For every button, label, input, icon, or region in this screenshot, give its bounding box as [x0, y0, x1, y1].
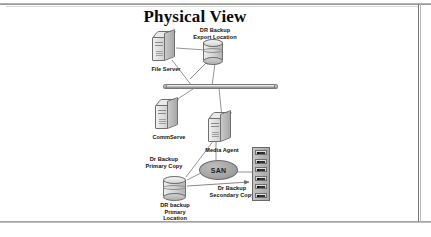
- server-bay-slot: [211, 126, 219, 127]
- cylinder-top-ellipse: [203, 39, 223, 47]
- server-side-face: [220, 110, 231, 142]
- server-vent: [156, 55, 163, 56]
- tape-drive-slot: [255, 184, 267, 189]
- cylinder-band: [203, 48, 223, 53]
- server-bay-slot: [155, 45, 163, 46]
- label-media-agent: Media Agent: [195, 147, 249, 154]
- tape-drive-slot: [255, 176, 267, 181]
- server-bay-slot: [158, 110, 166, 111]
- label-dr-backup-secondary-copy: Dr Backup Secondary Copy: [206, 185, 258, 198]
- label-dr-backup-primary-copy: Dr Backup Primary Copy: [136, 156, 192, 169]
- label-dr-backup-primary-location: DR backup Primary Location: [148, 202, 202, 222]
- server-vent: [212, 134, 219, 135]
- label-file-server: File Server: [140, 66, 192, 73]
- label-dr-backup-export-location: DR Backup Export Location: [189, 27, 241, 40]
- node-san: SAN: [199, 160, 238, 180]
- cylinder-top-ellipse: [163, 176, 186, 184]
- server-bay-slot: [211, 123, 219, 124]
- server-bay-slot: [155, 42, 163, 43]
- network-backbone-bar: [165, 84, 276, 89]
- tape-drive-slot: [255, 193, 267, 198]
- tape-drive-slot: [255, 167, 267, 172]
- wire-fileserver-network: [172, 60, 192, 86]
- label-san: SAN: [211, 167, 227, 174]
- server-side-face: [164, 29, 175, 61]
- wire-fileserver-export: [176, 48, 205, 50]
- label-commserve: CommServe: [143, 134, 195, 141]
- node-dr-backup-primary-location: [163, 176, 186, 201]
- server-front-face: [152, 37, 165, 61]
- server-vent: [159, 121, 166, 122]
- diagram-canvas: Physical View: [0, 0, 431, 237]
- network-backbone-cap-left: [163, 84, 167, 89]
- node-media-agent: [208, 112, 234, 143]
- server-vent: [156, 51, 163, 52]
- server-vent: [156, 53, 163, 54]
- server-vent: [159, 123, 166, 124]
- wire-export-network: [212, 63, 215, 86]
- node-dr-backup-export-location: [203, 39, 223, 65]
- server-front-face: [155, 105, 168, 129]
- network-backbone-cap-right: [274, 84, 278, 89]
- server-vent: [159, 119, 166, 120]
- node-tape-library: [252, 147, 270, 201]
- server-vent: [212, 136, 219, 137]
- node-commserve: [155, 99, 181, 130]
- cylinder-bottom-ellipse: [203, 57, 223, 65]
- server-vent: [212, 132, 219, 133]
- server-side-face: [167, 97, 178, 129]
- server-front-face: [208, 118, 221, 142]
- tape-drive-slot: [255, 150, 267, 155]
- node-file-server: [152, 31, 178, 62]
- cylinder-band: [163, 185, 186, 190]
- server-bay-slot: [158, 113, 166, 114]
- cylinder-bottom-ellipse: [163, 193, 186, 201]
- tape-drive-slot: [255, 159, 267, 164]
